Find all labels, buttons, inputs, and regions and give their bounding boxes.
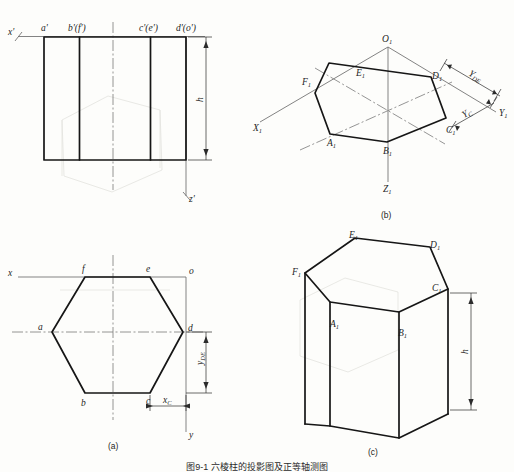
- front-view-vertex-do: d'(o'): [176, 23, 196, 34]
- panel-c-caption: (c): [368, 447, 378, 457]
- panel-c-vertex-d1: D1: [429, 240, 440, 251]
- drawing-page: x' z' a' b'(f') c'(e') d'(o') h: [0, 0, 514, 472]
- panel-b: O1 X1 Y1 Z1 A1 B1 C1 D1 E1 F1 YDE: [252, 34, 508, 220]
- panel-a: x y o a b c d e f yDE xC (a): [7, 255, 212, 451]
- panel-b-vertex-e1: E1: [355, 68, 365, 79]
- panel-a-vertex-b: b: [81, 398, 86, 408]
- panel-c-bottom-edges: [305, 414, 448, 438]
- front-view-outline: [44, 37, 186, 160]
- scan-showthrough: [60, 96, 398, 372]
- front-view-x-axis-label: x': [7, 27, 15, 37]
- front-view-z-axis-label: z': [188, 194, 196, 204]
- panel-b-vertex-f1: F1: [301, 77, 311, 88]
- panel-c-vertex-e1: E1: [348, 230, 358, 241]
- panel-c-vertex-a1: A1: [329, 319, 339, 330]
- panel-c: A1 B1 C1 D1 E1 F1 h (c): [291, 230, 477, 457]
- figure-caption: 图9-1 六棱柱的投影图及正等轴测图: [186, 461, 328, 472]
- panel-a-origin-label: o: [189, 266, 194, 276]
- panel-b-origin-label: O1: [382, 34, 392, 45]
- panel-c-vertex-b1: B1: [398, 328, 407, 339]
- panel-a-vertex-e: e: [146, 264, 150, 274]
- panel-b-vertex-a1: A1: [326, 138, 336, 149]
- panel-c-vertex-f1: F1: [291, 267, 301, 278]
- panel-b-y1-axis-label: Y1: [499, 108, 508, 119]
- panel-c-top-face: [305, 238, 448, 312]
- panel-front-view: x' z' a' b'(f') c'(e') d'(o') h: [7, 22, 212, 204]
- panel-b-construction-line-1: [315, 68, 445, 144]
- technical-drawing-figure: x' z' a' b'(f') c'(e') d'(o') h: [0, 0, 514, 472]
- panel-c-height-label: h: [460, 349, 470, 354]
- panel-b-x1-axis-label: X1: [252, 123, 262, 134]
- front-view-height-label: h: [195, 97, 205, 102]
- front-view-vertex-bf: b'(f'): [68, 23, 86, 34]
- panel-b-vertex-b1: B1: [383, 146, 392, 157]
- panel-a-dim-y-de-label: yDE: [195, 352, 206, 366]
- panel-b-hexagon: [315, 63, 446, 142]
- panel-b-x1-axis: [260, 47, 388, 122]
- panel-a-vertex-d: d: [188, 323, 193, 333]
- front-view-vertex-ce: c'(e'): [139, 23, 158, 34]
- panel-c-vertex-c1: C1: [432, 283, 442, 294]
- panel-a-y-axis-label: y: [188, 430, 194, 440]
- panel-b-vertex-c1: C1: [446, 125, 456, 136]
- panel-b-dim-y-c-label: YC: [460, 106, 474, 121]
- front-view-vertex-a: a': [41, 23, 49, 33]
- panel-a-vertex-a: a: [38, 322, 43, 332]
- panel-b-dim-y-de-label: YDE: [466, 68, 484, 85]
- panel-a-caption: (a): [108, 441, 119, 451]
- panel-a-x-axis-label: x: [7, 268, 13, 278]
- panel-a-dim-x-c-label: xC: [162, 395, 172, 406]
- panel-b-z1-axis-label: Z1: [383, 184, 392, 195]
- panel-b-vertex-d1: D1: [431, 71, 442, 82]
- panel-a-hexagon: [52, 277, 183, 393]
- panel-a-vertex-f: f: [82, 264, 86, 274]
- panel-b-caption: (b): [381, 210, 392, 220]
